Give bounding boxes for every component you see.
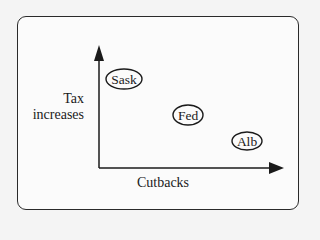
node-label: Alb: [237, 134, 258, 149]
x-axis-label: Cutbacks: [130, 175, 196, 191]
y-axis-arrowhead-icon: [94, 45, 104, 61]
node-alb: Alb: [232, 132, 262, 150]
y-axis-label: Tax increases: [28, 91, 84, 123]
y-axis-label-line2: increases: [28, 107, 84, 123]
node-label: Fed: [178, 108, 199, 123]
x-axis-arrowhead-icon: [269, 162, 284, 174]
node-fed: Fed: [173, 105, 203, 125]
node-label: Sask: [111, 72, 137, 87]
y-axis-label-line1: Tax: [28, 91, 84, 107]
node-sask: Sask: [106, 69, 142, 89]
